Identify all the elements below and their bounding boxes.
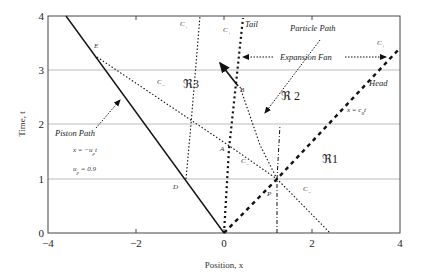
y-tick: 0 [39, 227, 45, 239]
tail-label: Tail [245, 19, 259, 29]
grid-lines [48, 70, 400, 179]
piston-equation: x = −upt [72, 146, 98, 156]
y-tick: 3 [39, 64, 45, 76]
x-tick: 2 [309, 237, 315, 249]
head-equation: x = c0t [346, 106, 367, 116]
region-1-label: ℜ1 [322, 152, 338, 166]
point-d-label: D [172, 183, 178, 191]
point-e-label: E [93, 42, 99, 50]
c-plus-label: C+ [223, 26, 231, 36]
piston-velocity: up = 0.9 [73, 165, 96, 175]
region-3-label: ℜ3 [183, 77, 199, 91]
particle-path-label: Particle Path [289, 23, 336, 33]
point-a-label: A [219, 145, 225, 153]
piston-path-label: Piston Path [54, 128, 95, 138]
c-minus-label: C− [241, 157, 249, 167]
c-minus-label: C− [303, 185, 311, 195]
y-tick-labels: 0 1 2 3 4 [39, 10, 45, 239]
y-tick: 4 [39, 10, 45, 22]
x-tick-labels: −4 −2 0 2 4 [42, 237, 403, 249]
velocity-arrow [220, 63, 238, 86]
c-minus-characteristic-e [97, 57, 330, 233]
y-tick: 1 [39, 173, 45, 185]
x-axis-label: Position, x [205, 260, 244, 270]
head-label: Head [368, 78, 388, 88]
expansion-fan-label: Expansion Fan [279, 52, 332, 62]
tail-line [224, 18, 243, 233]
region-2-label: ℜ 2 [281, 89, 300, 103]
y-tick: 2 [39, 118, 45, 130]
c-plus-label: C+ [377, 39, 385, 49]
y-axis-label: Time, t [17, 111, 27, 137]
c-minus-label: C− [157, 78, 165, 88]
head-line [224, 48, 400, 233]
x-tick: 4 [397, 237, 403, 249]
characteristics-chart: −4 −2 0 2 4 0 1 2 3 4 Position, x Time, … [0, 0, 421, 276]
x-tick: 0 [221, 237, 227, 249]
x-tick: −2 [130, 237, 142, 249]
c-plus-label: C+ [180, 20, 188, 30]
point-p-label: P [266, 190, 272, 198]
c-plus-characteristic [186, 16, 200, 179]
point-b-label: B [240, 86, 245, 94]
